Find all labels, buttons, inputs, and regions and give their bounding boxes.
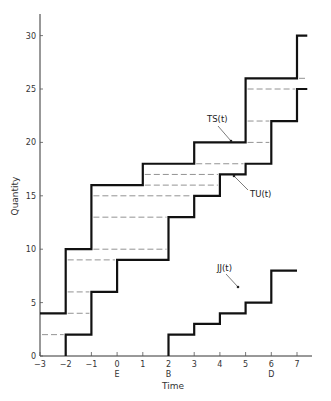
x-tick-label: 6 [269,360,274,369]
arrowhead-icon [237,286,240,289]
x-tick-label: −2 [60,360,72,369]
annotations: TS(t)TU(t)JJ(t) [206,114,271,288]
annotation-arrow [226,274,238,287]
x-tick-label: 1 [140,360,145,369]
x-tick-label: 3 [192,360,197,369]
annotation-arrow [234,176,248,190]
x-tick-label: −3 [34,360,46,369]
x-tick-label: 4 [217,360,222,369]
y-tick-label: 25 [26,85,36,94]
y-tick-label: 5 [31,299,36,308]
y-axis-title: Quantity [10,176,20,216]
x-event-label: D [268,370,274,379]
annotation-label: TU(t) [249,189,271,199]
y-tick-label: 30 [26,32,36,41]
arrowhead-icon [230,140,233,143]
annotation-label: JJ(t) [216,263,232,273]
annotation-arrow [218,126,231,141]
y-tick-label: 15 [26,192,36,201]
arrowhead-icon [233,175,236,178]
x-tick-label: −1 [86,360,98,369]
series-jjt [169,271,298,356]
x-tick-label: 0 [115,360,120,369]
series-tut [66,89,308,356]
x-event-label: B [166,370,172,379]
y-tick-label: 10 [26,245,36,254]
x-tick-label: 2 [166,360,171,369]
annotation-label: TS(t) [206,114,228,124]
x-tick-label: 7 [294,360,299,369]
step-chart: 051015202530−3−2−101234567EBD TS(t)TU(t)… [0,0,331,401]
x-axis-title: Time [161,381,184,391]
x-tick-label: 5 [243,360,248,369]
dashed-levels [42,78,305,334]
x-event-label: E [115,370,120,379]
y-tick-label: 20 [26,138,36,147]
tick-labels: 051015202530−3−2−101234567EBD [26,32,300,379]
